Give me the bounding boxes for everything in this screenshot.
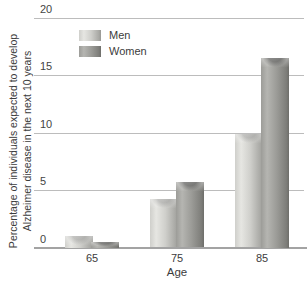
women-color-swatch: [79, 46, 101, 57]
men-color-swatch: [79, 30, 101, 41]
x-category-label-65: 65: [70, 252, 114, 264]
bar-women-65: [91, 242, 119, 248]
y-tick-label-0: 0: [40, 233, 46, 246]
bar-women-75: [176, 182, 204, 248]
x-category-label-75: 75: [155, 252, 199, 264]
gridline-y20: [34, 18, 304, 19]
x-category-label-85: 85: [240, 252, 284, 264]
bar-men-75: [150, 199, 178, 247]
bar-top-shading: [261, 58, 289, 70]
y-axis-title-line1: Percentage of individuals expected to de…: [6, 16, 20, 266]
bar-men-85: [235, 134, 263, 248]
y-axis-title: Percentage of individuals expected to de…: [6, 16, 36, 266]
y-tick-label-20: 20: [40, 3, 52, 16]
alzheimer-risk-bar-chart: Percentage of individuals expected to de…: [0, 0, 307, 289]
bar-top-shading: [65, 236, 93, 248]
y-tick-label-10: 10: [40, 118, 52, 131]
legend-label-men: Men: [109, 29, 130, 41]
legend-label-women: Women: [109, 45, 147, 57]
y-axis-title-line2: Alzheimer disease in the next 10 years: [20, 16, 34, 266]
bar-top-shading: [150, 199, 178, 211]
legend: Men Women: [79, 29, 147, 61]
bar-top-shading: [235, 134, 263, 146]
y-tick-label-15: 15: [40, 60, 52, 73]
bar-men-65: [65, 236, 93, 248]
bar-women-85: [261, 58, 289, 248]
bar-top-shading: [91, 242, 119, 248]
legend-entry-women: Women: [79, 45, 147, 57]
y-tick-label-5: 5: [40, 175, 46, 188]
x-axis-title: Age: [147, 266, 207, 278]
legend-entry-men: Men: [79, 29, 147, 41]
bar-top-shading: [176, 182, 204, 194]
